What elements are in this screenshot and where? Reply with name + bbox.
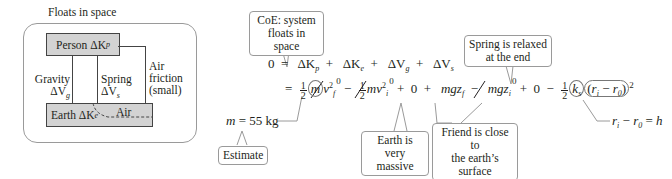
spring-relaxed-line2: at the end (469, 51, 547, 64)
eq2-ks-circled: ks (569, 80, 584, 97)
eq2-minus: − (602, 81, 609, 96)
frac-den: 2 (562, 91, 567, 100)
eq1-term-kp-sub: p (315, 64, 319, 73)
eq1-plus: + (326, 56, 333, 71)
eq2-vi-zero: 0 (389, 76, 394, 86)
friend-close-line1: Friend is close to (437, 126, 513, 152)
eq1-plus: + (371, 56, 378, 71)
rel-r0-sub: 0 (638, 121, 642, 130)
mass-symbol: m (226, 113, 235, 128)
eq2-vf-sub: f (333, 89, 335, 98)
estimate-callout: Estimate (218, 146, 268, 165)
air-boundary (93, 103, 152, 117)
eq2-vi-sub: i (386, 89, 388, 98)
eq1-term-vg: ΔV (388, 56, 406, 71)
eq2-minus: − (344, 81, 351, 96)
mass-value: m = 55 kg (226, 113, 278, 129)
earth-massive-callout: Earth is very massive (361, 131, 429, 176)
eq2-zi-zero: 0 (512, 76, 517, 86)
coe-line1: CoE: system (254, 14, 319, 27)
eq2-plus: + (424, 81, 431, 96)
mass-equals-value: = 55 kg (239, 113, 279, 128)
friend-close-line2: the earth’s surface (437, 152, 513, 178)
eq1-equals: = (281, 56, 288, 71)
rel-equals: = (645, 113, 652, 128)
frac-den: 2 (360, 91, 365, 100)
earth-massive-line1: Earth is (366, 134, 424, 147)
eq2-displacement-circled: (ri − r0) (584, 80, 629, 97)
rel-h: h (656, 113, 663, 128)
eq2-ks-sub: s (578, 89, 581, 98)
eq2-zi-sub: i (509, 89, 511, 98)
eq2-minus: − (547, 81, 554, 96)
equation-line-2: = 12mv2f0 − 12mv2i0 + 0 + mgzf − mgzi0 +… (285, 80, 634, 100)
rel-ri-sub: i (617, 121, 619, 130)
eq2-mvi: mv (367, 81, 382, 96)
spring-relaxed-callout: Spring is relaxed at the end (464, 35, 552, 67)
paren-close: ) (622, 81, 626, 96)
eq1-term-ke: ΔK (343, 56, 361, 71)
friend-close-callout: Friend is close to the earth’s surface (432, 123, 518, 179)
eq1-term-vs-sub: s (451, 64, 454, 73)
eq2-plus: + (397, 81, 404, 96)
coe-line2: floats in space (254, 27, 319, 53)
eq1-plus: + (416, 56, 423, 71)
earth-pointer (394, 103, 407, 131)
frac-den: 2 (301, 91, 306, 100)
coe-callout: CoE: system floats in space (249, 11, 324, 56)
eq2-ri-sub: i (597, 89, 599, 98)
equation-line-1: 0 = ΔKp + ΔKe + ΔVg + ΔVs (268, 56, 454, 73)
displacement-relation: ri − r0 = h (612, 113, 663, 130)
eq2-spring-zero: 0 (534, 81, 541, 96)
spring-relaxed-line1: Spring is relaxed (469, 38, 547, 51)
friend-pointer-b (435, 103, 437, 123)
eq2-vf-zero: 0 (336, 76, 341, 86)
eq2-minus: − (471, 81, 478, 96)
radius-leader (583, 100, 610, 121)
eq2-mass-circled: m (308, 80, 323, 97)
eq1-term-kp: ΔK (297, 56, 315, 71)
eq2-square: 2 (629, 80, 634, 90)
eq2-earth-zero: 0 (411, 81, 418, 96)
eq1-term-ke-sub: e (360, 64, 364, 73)
estimate-pointer (237, 131, 247, 145)
eq1-term-vs: ΔV (433, 56, 451, 71)
half-fraction: 12 (300, 81, 307, 100)
eq1-term-vg-sub: g (405, 64, 409, 73)
eq2-mgzi: mgz (488, 81, 509, 96)
eq2-equals: = (285, 81, 292, 96)
eq2-plus: + (520, 81, 527, 96)
half-fraction: 12 (561, 81, 568, 100)
earth-massive-line2: very massive (366, 147, 424, 173)
rel-minus: − (623, 113, 630, 128)
eq1-lhs: 0 (268, 56, 275, 71)
eq2-mgzf: mgz (441, 81, 462, 96)
half-fraction: 12 (359, 81, 366, 100)
friend-pointer-c (461, 103, 482, 123)
eq2-zf-sub: f (462, 89, 464, 98)
